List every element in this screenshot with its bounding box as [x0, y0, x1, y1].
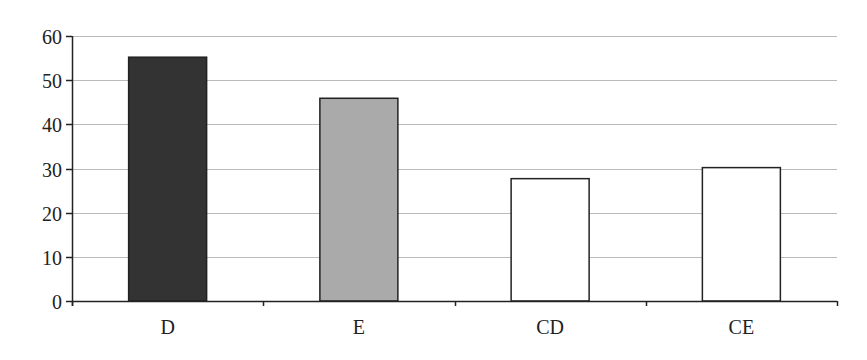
y-axis-ticks: 0102030405060	[42, 26, 72, 313]
bars	[129, 57, 781, 301]
y-tick-label: 20	[42, 203, 62, 225]
x-category-label: E	[353, 316, 365, 338]
x-category-label: CD	[536, 316, 564, 338]
y-tick-label: 10	[42, 247, 62, 269]
y-tick-label: 30	[42, 159, 62, 181]
x-category-label: CE	[729, 316, 755, 338]
bar-chart: 0102030405060 DECDCE	[0, 0, 867, 360]
x-axis-labels: DECDCE	[160, 316, 754, 338]
y-tick-label: 50	[42, 70, 62, 92]
bar-d	[129, 57, 207, 301]
y-tick-label: 0	[52, 291, 62, 313]
y-tick-label: 40	[42, 114, 62, 136]
x-category-label: D	[160, 316, 174, 338]
bar-cd	[511, 179, 589, 301]
bar-e	[320, 98, 398, 301]
y-tick-label: 60	[42, 26, 62, 48]
bar-ce	[702, 168, 780, 301]
